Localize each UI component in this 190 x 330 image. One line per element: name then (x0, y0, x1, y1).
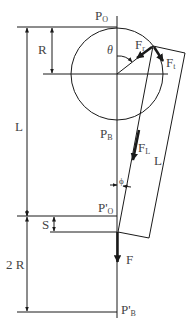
label-2r: 2 R (6, 259, 24, 271)
label-p-b: PB (100, 128, 113, 142)
label-theta: θ (107, 44, 113, 56)
label-p-o: PO (95, 10, 108, 24)
label-p-prime-o: P'O (98, 202, 113, 216)
label-l-right: L (154, 155, 162, 167)
ft-arrow (154, 47, 163, 61)
label-p-prime-b: P'B (121, 304, 136, 318)
label-f-r: Fr (135, 39, 145, 53)
rod-length-dimension (118, 46, 185, 238)
label-r: R (38, 44, 47, 56)
label-f-l: FL (138, 142, 150, 156)
label-phi: ϕ (119, 175, 124, 187)
theta-arc (117, 56, 132, 62)
label-f-t: Ft (166, 57, 175, 71)
label-f: F (126, 254, 133, 266)
label-s: S (42, 219, 49, 231)
label-l-left: L (15, 121, 23, 133)
phi-marker-right (123, 186, 131, 187)
